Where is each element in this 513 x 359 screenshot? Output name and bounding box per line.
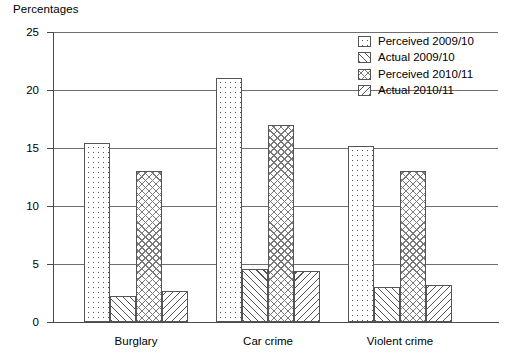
legend-item-label: Actual 2009/10 — [378, 52, 455, 64]
y-axis-tick-label: 10 — [9, 200, 39, 212]
y-axis-tick-label: 20 — [9, 84, 39, 96]
legend-item: Actual 2009/10 — [358, 50, 508, 67]
x-axis-tick-label: Car crime — [243, 335, 293, 347]
legend-item-label: Actual 2010/11 — [378, 85, 454, 97]
y-axis-tick-label: 15 — [9, 142, 39, 154]
y-axis-tick-label: 5 — [9, 258, 39, 270]
legend-item: Actual 2010/11 — [358, 83, 508, 100]
x-axis-tick-label: Burglary — [115, 335, 158, 347]
legend-item-label: Perceived 2010/11 — [378, 69, 473, 81]
legend-swatch-icon — [358, 36, 371, 47]
bar-chart: Percentages 0510152025 BurglaryCar crime… — [0, 0, 513, 359]
legend-item: Perceived 2009/10 — [358, 33, 508, 50]
y-axis-tick-label: 0 — [9, 316, 39, 328]
x-axis-tick-label: Violent crime — [367, 335, 433, 347]
y-axis-tick-label: 25 — [9, 26, 39, 38]
legend-item: Perceived 2010/11 — [358, 66, 508, 83]
legend-swatch-icon — [358, 52, 371, 63]
legend-swatch-icon — [358, 85, 371, 96]
chart-legend: Perceived 2009/10Actual 2009/10Perceived… — [358, 33, 508, 99]
legend-item-label: Perceived 2009/10 — [378, 36, 474, 48]
legend-swatch-icon — [358, 69, 371, 80]
